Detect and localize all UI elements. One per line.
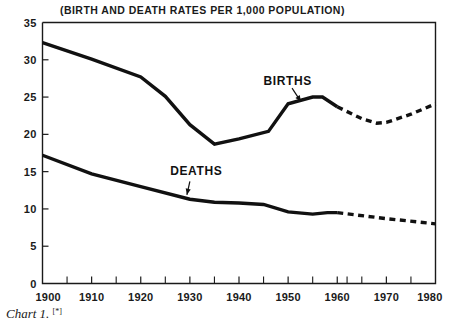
y-axis-tick-label: 15 <box>24 166 37 178</box>
series-line-births-actual <box>43 43 338 144</box>
y-axis-tick-label: 0 <box>30 278 36 290</box>
x-axis: 190019101920193019401950196019701980 <box>36 277 443 303</box>
chart-title: (BIRTH AND DEATH RATES PER 1,000 POPULAT… <box>60 4 345 16</box>
births-callout-label: BIRTHS <box>264 74 312 88</box>
series-line-births-projected <box>337 104 435 123</box>
x-axis-tick-label: 1950 <box>275 291 300 303</box>
x-axis-tick-label: 1900 <box>36 291 61 303</box>
x-axis-tick-label: 1910 <box>79 291 104 303</box>
y-axis-tick-label: 35 <box>24 17 37 29</box>
x-axis-tick-label: 1920 <box>128 291 153 303</box>
birth-death-rate-line-chart: (BIRTH AND DEATH RATES PER 1,000 POPULAT… <box>0 0 462 326</box>
y-axis-tick-label: 5 <box>30 240 36 252</box>
series-annotations: BIRTHSDEATHS <box>170 74 312 195</box>
x-axis-tick-label: 1940 <box>226 291 251 303</box>
y-axis-tick-label: 25 <box>24 91 37 103</box>
x-axis-tick-label: 1980 <box>417 291 442 303</box>
y-axis-tick-label: 20 <box>24 128 37 140</box>
x-axis-tick-label: 1960 <box>325 291 350 303</box>
series-line-deaths-projected <box>337 213 435 224</box>
y-axis-tick-label: 30 <box>24 54 37 66</box>
deaths-callout-arrowhead <box>186 188 191 194</box>
x-axis-tick-label: 1930 <box>177 291 202 303</box>
chart-caption: Chart 1. [*] <box>6 306 62 321</box>
chart-root: (BIRTH AND DEATH RATES PER 1,000 POPULAT… <box>0 0 462 326</box>
y-axis: 05101520253035 <box>24 17 49 290</box>
series-lines <box>43 43 436 224</box>
deaths-callout-label: DEATHS <box>170 164 222 178</box>
x-axis-tick-label: 1970 <box>374 291 399 303</box>
y-axis-tick-label: 10 <box>24 203 37 215</box>
